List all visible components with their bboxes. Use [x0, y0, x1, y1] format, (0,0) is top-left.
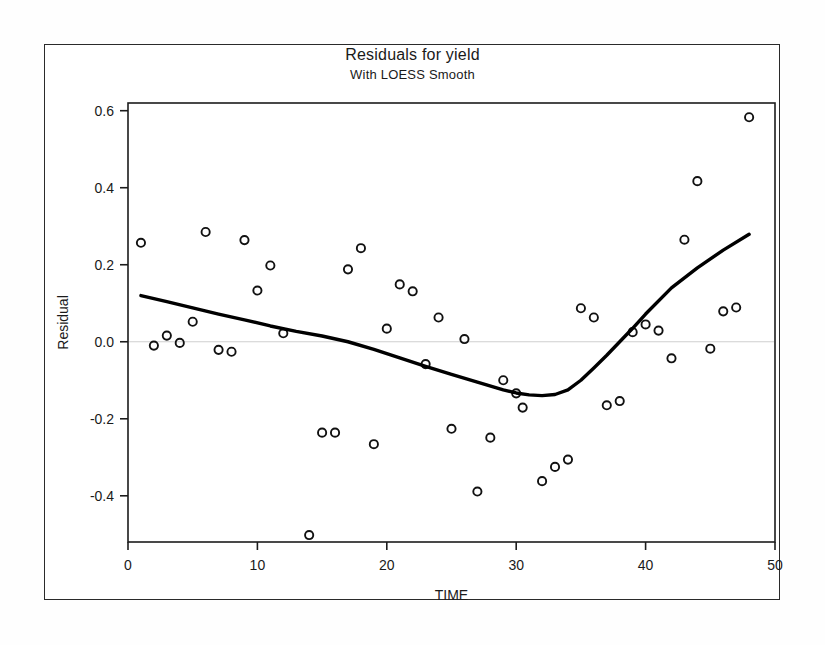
plot-frame: [128, 103, 775, 542]
residual-scatter-plot: 0.60.40.20.0-0.2-0.401020304050TIMEResid…: [0, 0, 825, 645]
y-axis-tick-label: -0.2: [90, 411, 114, 427]
y-axis-tick-label: 0.0: [95, 334, 115, 350]
y-axis-tick-label: -0.4: [90, 488, 114, 504]
x-axis-tick-label: 10: [250, 557, 266, 573]
y-axis-tick-label: 0.6: [95, 103, 115, 119]
x-axis-title: TIME: [435, 587, 468, 603]
y-axis-tick-label: 0.2: [95, 257, 115, 273]
x-axis-tick-label: 0: [124, 557, 132, 573]
x-axis-tick-label: 20: [379, 557, 395, 573]
x-axis-tick-label: 50: [767, 557, 783, 573]
screenshot-page: Residuals for yield With LOESS Smooth 0.…: [0, 0, 825, 645]
x-axis-tick-label: 30: [508, 557, 524, 573]
x-axis-tick-label: 40: [638, 557, 654, 573]
y-axis-tick-label: 0.4: [95, 180, 115, 196]
y-axis-title: Residual: [55, 295, 71, 349]
